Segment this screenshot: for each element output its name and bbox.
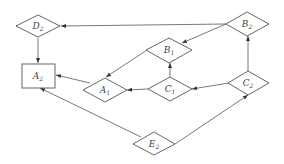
edge-b2-to-d2 [61,24,226,26]
edge-e2-to-c2 [175,95,248,144]
edge-b1-to-a1 [106,50,147,77]
node-a2: A2 [22,64,55,88]
flow-diagram: D2 B2 B1 A2 A1 C1 C2 E2 [0,0,284,164]
edge-b2-to-b1 [182,24,226,43]
edge-c2-to-c1 [192,83,229,89]
edge-e2-to-a2 [40,88,141,137]
node-c1: C1 [148,77,192,101]
node-e2: E2 [133,132,175,155]
node-d2: D2 [16,15,60,37]
edges [38,24,248,144]
node-c2: C2 [228,71,269,95]
node-a1: A1 [83,78,127,102]
edge-a1-to-a2 [56,75,90,83]
node-b2: B2 [226,12,269,36]
edge-c1-to-a1 [127,89,148,90]
